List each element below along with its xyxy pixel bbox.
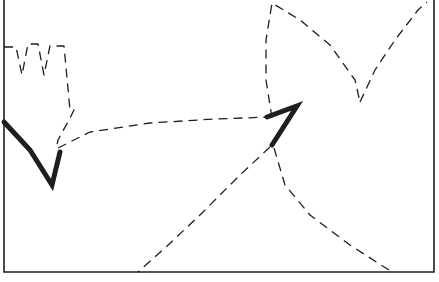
dashed-path-group [4,2,427,272]
left-heavy-stroke-mark [4,122,60,185]
diagram-canvas [0,0,439,282]
lower-left-arc-dashed-path [138,147,270,272]
lower-right-arc-dashed-path [274,148,392,272]
left-to-center-curve-dashed-path [58,117,270,148]
diagram-frame [4,0,434,272]
upper-left-arc-dashed-path [266,3,360,118]
movement-diagram [0,0,439,282]
upper-right-arc-dashed-path [360,2,427,102]
